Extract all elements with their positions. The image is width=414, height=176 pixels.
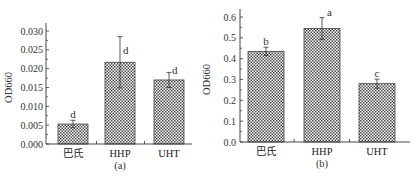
y-tick-label: 0.5 (224, 32, 237, 43)
x-tick-label: HHP (109, 148, 130, 159)
panel-label: (a) (114, 160, 126, 172)
y-axis-label: OD660 (201, 64, 212, 95)
chart-a: d巴氏dHHPdUHT0.0000.0050.0100.0150.0200.02… (3, 23, 192, 172)
y-tick-label: 0.020 (21, 63, 44, 74)
significance-label: d (172, 64, 178, 76)
significance-label: a (327, 6, 332, 18)
y-axis-label: OD660 (3, 72, 14, 103)
chart-b: b巴氏aHHPcUHT0.00.10.20.30.40.50.6OD660(b) (201, 6, 410, 170)
y-tick-label: 0.0 (224, 137, 237, 148)
y-tick-label: 0.025 (21, 44, 44, 55)
y-tick-label: 0.6 (224, 12, 237, 23)
bar-0 (248, 51, 284, 142)
bar-1 (304, 28, 340, 142)
panel-label: (b) (316, 158, 329, 170)
y-tick-label: 0.030 (21, 26, 44, 37)
x-tick-label: UHT (366, 146, 388, 157)
y-tick-label: 0.010 (21, 101, 44, 112)
bar-2 (154, 80, 184, 144)
x-tick-label: 巴氏 (63, 148, 84, 159)
y-tick-label: 0.1 (224, 116, 237, 127)
significance-label: b (263, 35, 269, 47)
figure: d巴氏dHHPdUHT0.0000.0050.0100.0150.0200.02… (0, 0, 414, 176)
y-tick-label: 0.005 (21, 120, 44, 131)
significance-label: d (123, 44, 129, 56)
y-tick-label: 0.4 (224, 53, 237, 64)
y-tick-label: 0.3 (224, 74, 237, 85)
x-tick-label: HHP (311, 146, 332, 157)
y-tick-label: 0.000 (21, 139, 44, 150)
y-tick-label: 0.2 (224, 95, 237, 106)
bar-2 (359, 84, 395, 142)
x-tick-label: 巴氏 (256, 146, 277, 157)
x-tick-label: UHT (158, 148, 180, 159)
y-tick-label: 0.015 (21, 82, 44, 93)
significance-label: d (70, 108, 76, 120)
significance-label: c (375, 67, 380, 79)
